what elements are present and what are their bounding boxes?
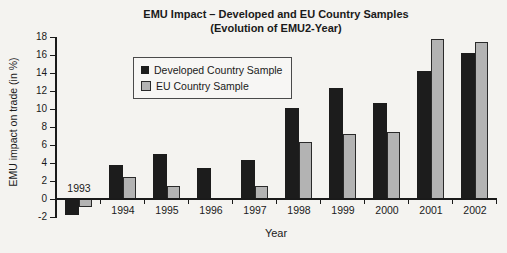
bar-eu-2001 — [431, 39, 444, 199]
legend-swatch-eu-icon — [141, 81, 151, 91]
bar-eu-1997 — [255, 186, 268, 200]
bar-eu-2002 — [475, 42, 488, 199]
bar-eu-1999 — [343, 134, 356, 199]
y-tick-label-8: 8 — [29, 121, 47, 133]
x-tick-label-2002: 2002 — [453, 204, 497, 216]
y-tick-mark--2 — [50, 217, 55, 218]
bar-developed-2002 — [461, 53, 475, 199]
x-tick-label-1993: 1993 — [57, 182, 101, 194]
bar-group-2000: 2000 — [373, 37, 401, 217]
x-tick-label-2001: 2001 — [409, 204, 453, 216]
plot-area: -2024681012141618 1993199419951996199719… — [55, 37, 497, 217]
bar-developed-1993 — [65, 199, 79, 215]
x-tick-label-1999: 1999 — [321, 204, 365, 216]
legend-label-eu: EU Country Sample — [156, 80, 249, 92]
y-axis-label: EMU impact on trade (in %) — [7, 58, 19, 187]
y-tick-mark-6 — [50, 145, 55, 146]
y-tick-mark-12 — [50, 91, 55, 92]
bar-eu-1998 — [299, 142, 312, 199]
x-tick-label-1998: 1998 — [277, 204, 321, 216]
x-axis-label: Year — [55, 227, 497, 239]
figure: EMU Impact – Developed and EU Country Sa… — [0, 0, 507, 253]
legend-swatch-developed-icon — [141, 66, 149, 74]
y-tick-label-18: 18 — [29, 31, 47, 43]
x-tick-label-1996: 1996 — [189, 204, 233, 216]
bar-eu-2000 — [387, 132, 400, 200]
y-tick-mark-4 — [50, 163, 55, 164]
x-tick-label-2000: 2000 — [365, 204, 409, 216]
y-tick-mark-16 — [50, 55, 55, 56]
y-tick-label-6: 6 — [29, 139, 47, 151]
y-tick-mark-8 — [50, 127, 55, 128]
y-tick-label-12: 12 — [29, 85, 47, 97]
bar-developed-2000 — [373, 103, 387, 199]
chart-title: EMU Impact – Developed and EU Country Sa… — [55, 7, 497, 35]
y-tick-label-10: 10 — [29, 103, 47, 115]
y-tick-mark-10 — [50, 109, 55, 110]
y-tick-mark-2 — [50, 181, 55, 182]
y-tick-label-14: 14 — [29, 67, 47, 79]
y-tick-label-0: 0 — [29, 193, 47, 205]
bar-developed-1997 — [241, 160, 255, 199]
bar-group-2001: 2001 — [417, 37, 445, 217]
legend-label-developed: Developed Country Sample — [154, 64, 282, 76]
chart-title-line1: EMU Impact – Developed and EU Country Sa… — [55, 7, 497, 21]
bar-eu-1994 — [123, 177, 136, 199]
bar-group-1999: 1999 — [329, 37, 357, 217]
bar-developed-2001 — [417, 71, 431, 199]
x-tick-label-1994: 1994 — [101, 204, 145, 216]
x-tick-label-1995: 1995 — [145, 204, 189, 216]
bar-developed-1994 — [109, 165, 123, 199]
bar-developed-1998 — [285, 108, 299, 199]
legend: Developed Country Sample EU Country Samp… — [133, 57, 292, 99]
bar-eu-1993 — [79, 199, 92, 207]
bar-group-1993: 1993 — [65, 37, 93, 217]
bar-group-2002: 2002 — [461, 37, 489, 217]
bar-developed-1996 — [197, 168, 211, 200]
y-tick-mark-14 — [50, 73, 55, 74]
y-tick-label-2: 2 — [29, 175, 47, 187]
y-tick-label--2: -2 — [29, 211, 47, 223]
y-tick-label-16: 16 — [29, 49, 47, 61]
chart-title-line2: (Evolution of EMU2-Year) — [55, 21, 497, 35]
bar-developed-1999 — [329, 88, 343, 199]
y-tick-mark-18 — [50, 37, 55, 38]
bar-developed-1995 — [153, 154, 167, 199]
x-axis-line — [55, 198, 497, 200]
x-tick-label-1997: 1997 — [233, 204, 277, 216]
y-tick-label-4: 4 — [29, 157, 47, 169]
legend-item-developed: Developed Country Sample — [141, 62, 282, 78]
legend-item-eu: EU Country Sample — [141, 78, 282, 94]
